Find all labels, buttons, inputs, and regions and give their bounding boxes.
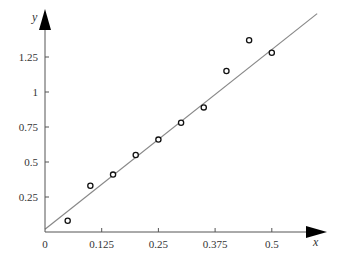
x-tick-label: 0.375 xyxy=(203,238,228,250)
y-tick-label: 0.25 xyxy=(19,191,39,203)
y-axis-label: y xyxy=(31,10,38,24)
data-point xyxy=(110,172,115,177)
data-point xyxy=(224,68,229,73)
axes: x y xyxy=(31,9,327,249)
x-tick-label: 0 xyxy=(42,238,48,250)
x-tick-label: 0.125 xyxy=(89,238,114,250)
x-tick-label: 0.25 xyxy=(149,238,169,250)
y-axis-arrow-icon xyxy=(39,9,51,30)
data-point xyxy=(247,38,252,43)
y-tick-label: 1 xyxy=(33,86,39,98)
y-tick-label: 0.5 xyxy=(24,156,38,168)
data-point xyxy=(201,105,206,110)
x-axis-label: x xyxy=(312,235,319,249)
data-point xyxy=(133,152,138,157)
scatter-chart: x y 00.1250.250.3750.50.250.50.7511.25 xyxy=(0,0,340,262)
data-point xyxy=(269,50,274,55)
data-point xyxy=(88,183,93,188)
ticks: 00.1250.250.3750.50.250.50.7511.25 xyxy=(19,51,279,250)
data-point xyxy=(156,137,161,142)
data-point xyxy=(178,120,183,125)
y-tick-label: 1.25 xyxy=(19,51,39,63)
data-point xyxy=(65,218,70,223)
x-tick-label: 0.5 xyxy=(265,238,279,250)
y-tick-label: 0.75 xyxy=(19,121,39,133)
